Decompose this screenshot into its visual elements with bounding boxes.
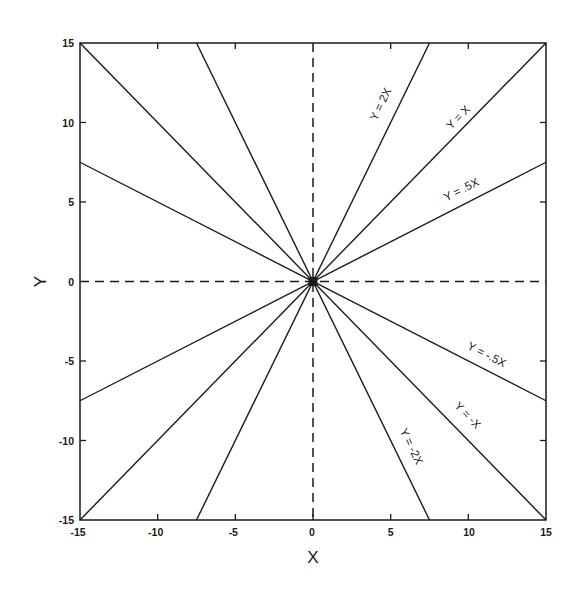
label-y-neg-2x: Y = -2X — [398, 426, 426, 466]
label-y-x: Y = X — [444, 103, 473, 132]
x-axis-title: X — [307, 548, 318, 567]
y-tick-label: 5 — [68, 196, 74, 208]
y-tick-label: -5 — [65, 355, 74, 367]
y-tick-label: 10 — [62, 117, 74, 129]
y-tick-label: -15 — [59, 514, 74, 526]
y-tick-label: 0 — [68, 276, 74, 288]
x-tick-label: 10 — [463, 526, 475, 538]
chart-canvas: Y = 2X Y = X Y = .5X Y = -.5X Y = -X Y =… — [0, 0, 582, 596]
origin-marker — [309, 277, 318, 286]
label-y-neg-0.5x: Y = -.5X — [466, 340, 509, 370]
x-tick-label: 5 — [388, 526, 394, 538]
label-y-2x: Y = 2X — [367, 86, 393, 123]
x-tick-label: -5 — [229, 526, 238, 538]
x-tick-label: 0 — [309, 526, 315, 538]
y-axis-title: Y — [31, 276, 50, 287]
y-tick-label: -10 — [59, 435, 74, 447]
x-tick-labels: -15 -10 -5 0 5 10 15 — [70, 526, 552, 538]
y-tick-labels: 15 10 5 0 -5 -10 -15 — [59, 37, 74, 526]
x-tick-label: -10 — [148, 526, 163, 538]
x-tick-label: -15 — [70, 526, 85, 538]
label-y-neg-x: Y = -X — [452, 400, 483, 432]
y-tick-label: 15 — [62, 37, 74, 49]
x-tick-label: 15 — [540, 526, 552, 538]
